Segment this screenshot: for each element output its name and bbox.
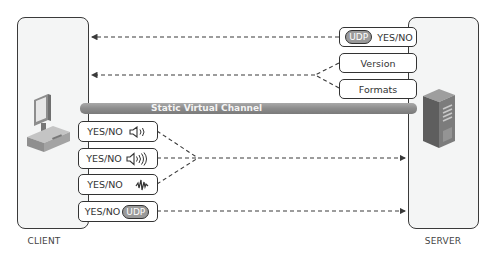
speaker-low-volume-icon bbox=[129, 126, 149, 138]
version-text: Version bbox=[361, 58, 396, 69]
microphone-waveform-icon bbox=[135, 178, 149, 192]
client-udp-message: YES/NO UDP bbox=[78, 201, 158, 222]
speaker-high-volume-icon bbox=[126, 152, 150, 166]
client-volume-message: YES/NO bbox=[78, 148, 158, 169]
server-udp-text: YES/NO bbox=[377, 32, 413, 43]
server-panel bbox=[408, 17, 479, 229]
volume-text: YES/NO bbox=[86, 153, 122, 164]
client-udp-text: YES/NO bbox=[85, 206, 121, 217]
client-recording-message: YES/NO bbox=[78, 174, 158, 195]
udp-badge: UDP bbox=[345, 30, 372, 44]
formats-text: Formats bbox=[359, 84, 397, 95]
channel-label: Static Virtual Channel bbox=[151, 103, 262, 114]
server-label: SERVER bbox=[414, 236, 472, 246]
udp-badge: UDP bbox=[122, 205, 149, 219]
client-playback-message: YES/NO bbox=[78, 121, 158, 142]
playback-text: YES/NO bbox=[87, 126, 123, 137]
server-udp-message: UDP YES/NO bbox=[339, 27, 417, 47]
server-version-message: Version bbox=[339, 53, 417, 73]
recording-text: YES/NO bbox=[87, 179, 123, 190]
server-formats-message: Formats bbox=[339, 79, 417, 99]
client-label: CLIENT bbox=[17, 236, 71, 246]
